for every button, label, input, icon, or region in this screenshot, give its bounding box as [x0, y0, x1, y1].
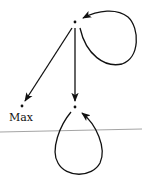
self-loop-bottom [55, 112, 102, 174]
node-label-max: Max [9, 112, 33, 123]
horizontal-divider-line [0, 129, 142, 132]
edge-top-to-max [25, 28, 72, 101]
graph-diagram: Max [0, 0, 142, 183]
graph-svg [0, 0, 142, 183]
node-top [74, 21, 77, 24]
node-max [21, 105, 24, 108]
self-loop-top [80, 11, 136, 65]
node-bottom [74, 106, 77, 109]
